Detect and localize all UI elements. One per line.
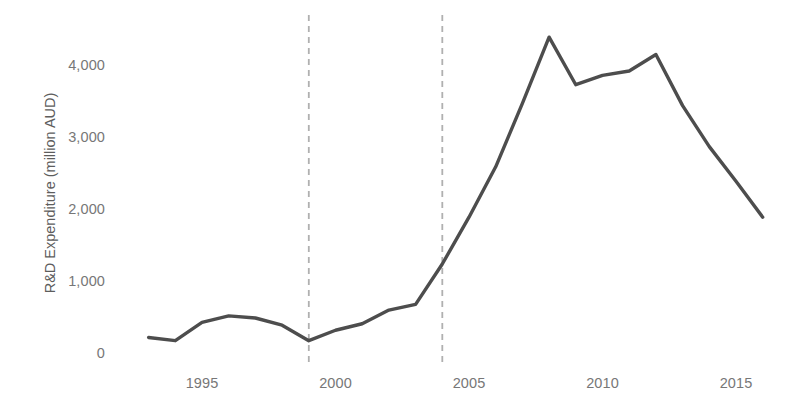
chart-plot-area xyxy=(0,0,786,417)
x-tick-label-2005: 2005 xyxy=(434,375,504,391)
y-tick-label-1000: 1,000 xyxy=(35,273,105,289)
series-line-0 xyxy=(149,37,763,340)
y-tick-label-3000: 3,000 xyxy=(35,129,105,145)
y-tick-label-2000: 2,000 xyxy=(35,201,105,217)
x-tick-label-2010: 2010 xyxy=(568,375,638,391)
annotation-lines-group xyxy=(309,15,443,366)
x-tick-label-2000: 2000 xyxy=(301,375,371,391)
chart-container: R&D Expenditure (million AUD) 01,0002,00… xyxy=(0,0,786,417)
y-tick-label-4000: 4,000 xyxy=(35,57,105,73)
y-tick-label-0: 0 xyxy=(35,345,105,361)
series-lines-group xyxy=(149,37,763,340)
x-tick-label-2015: 2015 xyxy=(701,375,771,391)
x-tick-label-1995: 1995 xyxy=(167,375,237,391)
